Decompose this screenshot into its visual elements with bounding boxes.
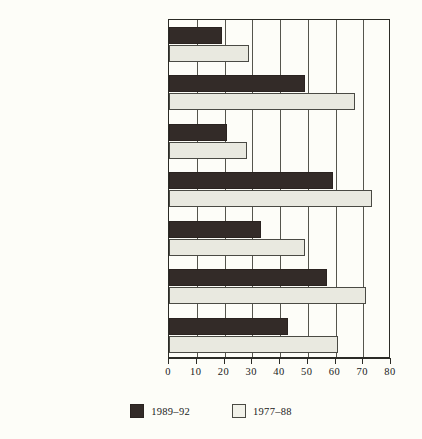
bar-group xyxy=(169,26,389,74)
bar-light xyxy=(169,287,366,304)
x-axis-tick xyxy=(362,358,363,364)
bar-group xyxy=(169,220,389,268)
bar-dark xyxy=(169,124,227,141)
bar-group xyxy=(169,123,389,171)
bar-group xyxy=(169,171,389,219)
bar-dark xyxy=(169,172,333,189)
bar-group xyxy=(169,74,389,122)
bar-light xyxy=(169,336,338,353)
x-axis-tick-label: 50 xyxy=(301,366,312,377)
bar-light xyxy=(169,93,355,110)
bar-light xyxy=(169,45,249,62)
bar-dark xyxy=(169,318,288,335)
x-axis-tick xyxy=(224,358,225,364)
x-axis-tick-label: 40 xyxy=(273,366,284,377)
x-axis-tick xyxy=(279,358,280,364)
x-axis-tick-label: 10 xyxy=(190,366,201,377)
x-axis-tick xyxy=(196,358,197,364)
x-axis-tick-label: 0 xyxy=(165,366,171,377)
chart-legend: 1989–921977–88 xyxy=(0,404,422,418)
bar-light xyxy=(169,239,305,256)
bar-group xyxy=(169,268,389,316)
x-axis-tick xyxy=(168,358,169,364)
legend-swatch-icon xyxy=(130,404,144,418)
x-axis-tick-label: 80 xyxy=(384,366,395,377)
bar-dark xyxy=(169,75,305,92)
bar-light xyxy=(169,142,247,159)
bar-dark xyxy=(169,27,222,44)
legend-swatch-icon xyxy=(232,404,246,418)
x-axis-tick xyxy=(251,358,252,364)
x-axis-tick-label: 70 xyxy=(357,366,368,377)
x-axis-tick-label: 20 xyxy=(218,366,229,377)
legend-item: 1977–88 xyxy=(232,404,292,418)
x-axis-tick xyxy=(307,358,308,364)
legend-item: 1989–92 xyxy=(130,404,190,418)
x-axis-tick-label: 30 xyxy=(246,366,257,377)
x-axis-tick xyxy=(335,358,336,364)
bar-dark xyxy=(169,221,261,238)
bar-chart: Black menWhite menMen with poor parentsa… xyxy=(0,0,422,439)
legend-label: 1977–88 xyxy=(253,406,292,417)
plot-area xyxy=(168,19,390,358)
x-axis-tick-label: 60 xyxy=(329,366,340,377)
bar-dark xyxy=(169,269,327,286)
legend-label: 1989–92 xyxy=(151,406,190,417)
x-axis-tick xyxy=(390,358,391,364)
bar-light xyxy=(169,190,372,207)
